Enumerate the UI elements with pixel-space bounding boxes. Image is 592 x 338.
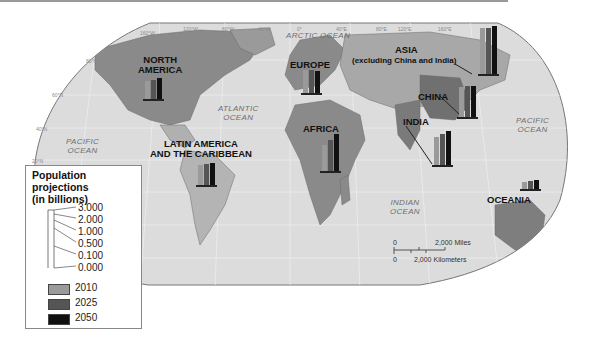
legend-swatch-2050	[48, 314, 70, 325]
scale-tick: 0.000	[78, 262, 103, 273]
region-label-china: CHINA	[418, 92, 448, 102]
ocean-label-pacific-west: PACIFIC OCEAN	[66, 137, 99, 155]
scale-tick: 0.100	[78, 250, 103, 261]
bar-group-europe	[301, 70, 322, 95]
graticule-label: 60°N	[52, 92, 63, 98]
graticule-label: 80°W	[222, 26, 234, 32]
bar-2010	[145, 81, 150, 99]
scale-zero-km: 0	[393, 256, 397, 263]
legend-title: Population projections (in billions)	[32, 169, 141, 205]
graticule-label: 20°N	[32, 158, 43, 164]
legend-label-2025: 2025	[75, 297, 97, 308]
region-label-latin-america: LATIN AMERICA AND THE CARIBBEAN	[150, 139, 252, 159]
ocean-label-pacific-east: PACIFIC OCEAN	[516, 116, 549, 134]
bar-group-oceania	[520, 180, 541, 191]
legend-scale-bracket	[46, 206, 80, 276]
region-sublabel-asia: (excluding China and India)	[352, 57, 456, 65]
graticule-label: 160°E	[438, 26, 452, 32]
bar-group-latin-america	[196, 163, 217, 187]
bar-group-india	[432, 131, 453, 167]
bar-group-africa	[320, 134, 341, 173]
legend-label-2010: 2010	[75, 282, 97, 293]
ocean-label-arctic: ARCTIC OCEAN	[286, 31, 350, 40]
graticule-label: 80°E	[376, 26, 387, 32]
region-label-oceania: OCEANIA	[487, 195, 531, 205]
legend-swatch-2025	[48, 299, 70, 310]
scale-zero-miles: 0	[393, 239, 397, 246]
legend-swatch-2010	[48, 284, 70, 295]
legend: Population projections (in billions) 3.0…	[25, 165, 142, 329]
bar-group-asia	[478, 26, 499, 76]
scale-miles-label: 2,000 Miles	[435, 239, 471, 246]
bar-2025	[151, 80, 156, 99]
ocean-label-atlantic: ATLANTIC OCEAN	[218, 104, 258, 122]
graticule-label: 120°E	[398, 26, 412, 32]
ocean-label-indian: INDIAN OCEAN	[390, 198, 420, 216]
scale-tick: 0.500	[78, 238, 103, 249]
region-label-europe: EUROPE	[290, 60, 330, 70]
region-label-asia: ASIA	[395, 45, 418, 55]
graticule-label: 160°W	[140, 30, 155, 36]
legend-label-2050: 2050	[75, 312, 97, 323]
graticule-label: 40°W	[258, 26, 270, 32]
bar-group-china	[457, 86, 478, 119]
region-label-india: INDIA	[403, 117, 429, 127]
region-label-north-america: NORTH AMERICA	[138, 55, 182, 75]
scale-bar	[393, 247, 448, 255]
scale-tick: 1.000	[78, 226, 103, 237]
region-label-africa: AFRICA	[303, 124, 339, 134]
scale-tick: 2.000	[78, 214, 103, 225]
graticule-label: 120°W	[183, 26, 198, 32]
legend-title-line1: Population projections	[32, 169, 141, 193]
scale-tick: 3.000	[78, 202, 103, 213]
graticule-label: 80°N	[86, 58, 97, 64]
bar-group-north-america	[143, 78, 164, 101]
bar-2050	[157, 78, 162, 99]
graticule-label: 40°N	[36, 126, 47, 132]
scale-km-label: 2,000 Kilometers	[414, 256, 467, 263]
